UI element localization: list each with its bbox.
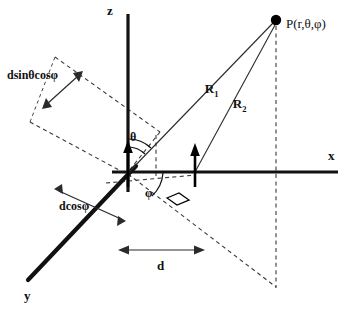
ray-R1 <box>128 23 273 173</box>
right-angle-marker <box>167 193 189 205</box>
phi-angle-label: φ <box>145 186 153 200</box>
spherical-coordinate-diagram: z x y P(r,θ,φ) R1 R2 θ φ d dsinθcosφ dco… <box>0 0 343 311</box>
d-measurement-label: d <box>157 258 165 273</box>
y-axis-label: y <box>24 288 31 303</box>
dashed-projection-line-lower <box>30 122 132 177</box>
inplane-measurement-label: dcosφ <box>59 199 90 213</box>
dashed-projection-line-upper <box>55 57 160 132</box>
theta-angle-label: θ <box>130 130 136 144</box>
phi-angle-arc <box>152 173 163 196</box>
point-P-marker <box>271 15 281 25</box>
ray-R2-label: R2 <box>210 96 263 115</box>
projection-measurement-label: dsinθcosφ <box>7 68 59 82</box>
d-measurement-arrow <box>118 246 205 255</box>
ray-R2-label-subscript: 2 <box>242 104 246 114</box>
z-axis-label: z <box>107 3 113 18</box>
x-axis-label: x <box>328 148 335 163</box>
diagram-canvas: z x y P(r,θ,φ) R1 R2 θ φ d dsinθcosφ dco… <box>0 0 343 311</box>
dashed-connector-left <box>30 57 55 122</box>
point-P-label: P(r,θ,φ) <box>286 16 326 31</box>
